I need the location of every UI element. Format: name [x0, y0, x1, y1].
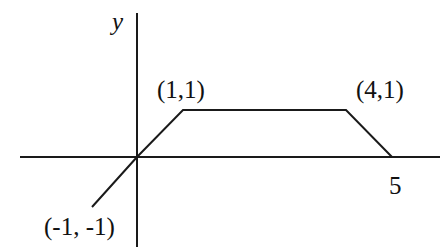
- point-label-1-1: (1,1): [157, 77, 205, 102]
- y-axis-label: y: [112, 9, 123, 34]
- graph-diagram: y (1,1) (4,1) 5 (-1, -1): [0, 0, 443, 247]
- x-tick-label-5: 5: [389, 173, 402, 198]
- graph-svg: [0, 0, 443, 247]
- point-label-4-1: (4,1): [356, 77, 404, 102]
- point-label-neg1-neg1: (-1, -1): [44, 214, 115, 239]
